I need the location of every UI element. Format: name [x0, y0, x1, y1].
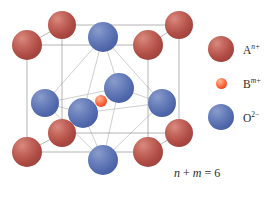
legend-superscript-a: n+	[251, 42, 260, 51]
sphere-icon	[216, 78, 227, 89]
formula-operator: +	[183, 166, 190, 180]
formula-value: 6	[214, 166, 220, 180]
atom-sphere-a	[133, 30, 163, 60]
legend-swatch-a	[205, 36, 237, 62]
legend-label-o: O2−	[243, 110, 259, 124]
atom-sphere-a	[12, 30, 42, 60]
unit-cell-structure	[0, 0, 200, 200]
sphere-icon	[208, 36, 234, 62]
atom-sphere-o	[88, 22, 118, 52]
legend-swatch-o	[205, 104, 237, 130]
legend: An+ Bm+ O2−	[205, 32, 278, 134]
formula-equals: =	[204, 166, 211, 180]
formula-var-m: m	[193, 166, 202, 180]
legend-item-oxygen-anion: O2−	[205, 100, 278, 134]
atom-sphere-o	[88, 145, 118, 175]
atom-sphere-o	[148, 89, 176, 117]
legend-label-b: Bm+	[243, 76, 261, 90]
formula-text: n + m = 6	[174, 166, 220, 181]
atom-sphere-o	[104, 73, 134, 103]
atom-sphere-o	[68, 98, 98, 128]
crystal-structure-figure: An+ Bm+ O2− n + m = 6	[0, 0, 278, 200]
atom-sphere-b	[95, 95, 107, 107]
atom-sphere-a	[165, 11, 193, 39]
legend-item-a-cation: An+	[205, 32, 278, 66]
legend-superscript-b: m+	[251, 76, 261, 85]
atom-sphere-a	[48, 11, 76, 39]
legend-swatch-b	[205, 78, 237, 89]
legend-superscript-o: 2−	[251, 110, 259, 119]
sphere-icon	[208, 104, 234, 130]
legend-item-b-cation: Bm+	[205, 66, 278, 100]
atom-sphere-o	[31, 89, 59, 117]
legend-label-a: An+	[243, 42, 260, 56]
legend-symbol-b: B	[243, 78, 251, 90]
atom-sphere-a	[12, 137, 42, 167]
formula-var-n: n	[174, 166, 180, 180]
atom-sphere-a	[133, 137, 163, 167]
atom-sphere-a	[165, 119, 193, 147]
